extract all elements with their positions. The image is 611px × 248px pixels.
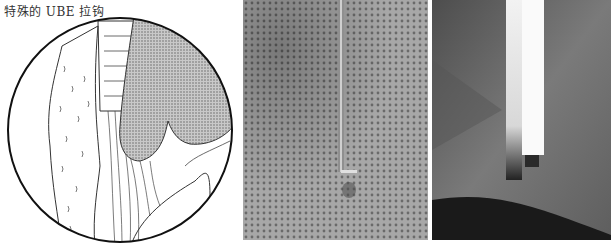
retractor-photo-drape xyxy=(243,0,428,240)
retractor-photo-closeup xyxy=(432,0,611,240)
endoscopic-illustration xyxy=(0,16,240,248)
